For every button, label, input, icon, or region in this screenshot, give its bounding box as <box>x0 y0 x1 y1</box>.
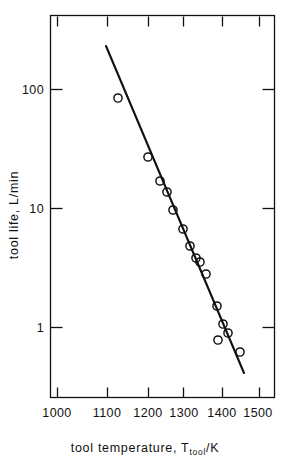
x-tick-label: 1400 <box>207 406 236 420</box>
x-axis-title: tool temperature, Ttool/K <box>71 441 219 457</box>
x-axis-title-subscript: tool <box>189 447 206 457</box>
x-tick-label: 1500 <box>243 406 272 420</box>
data-points <box>114 94 244 356</box>
chart-svg: 100 10 1 1000 1100 1200 1300 1400 1500 t… <box>0 0 290 475</box>
y-tick-label: 100 <box>22 83 44 97</box>
data-point <box>144 153 152 161</box>
y-tick-label: 10 <box>29 202 44 216</box>
x-axis-ticks-top <box>58 17 260 27</box>
y-axis-ticks <box>51 90 63 328</box>
x-axis-title-main: tool temperature, T <box>71 441 190 455</box>
x-tick-label: 1200 <box>133 406 162 420</box>
data-point <box>114 94 122 102</box>
data-point <box>214 336 222 344</box>
data-point <box>236 348 244 356</box>
x-axis-ticks <box>58 388 260 398</box>
x-axis-title-tail: /K <box>206 441 219 455</box>
fit-line <box>106 46 244 373</box>
y-tick-label: 1 <box>37 321 44 335</box>
x-tick-label: 1000 <box>42 406 71 420</box>
chart-figure: 100 10 1 1000 1100 1200 1300 1400 1500 t… <box>0 0 290 475</box>
plot-frame <box>51 16 275 398</box>
x-tick-label: 1100 <box>93 406 121 420</box>
x-tick-label: 1300 <box>169 406 198 420</box>
x-tick-labels: 1000 1100 1200 1300 1400 1500 <box>42 406 272 420</box>
y-tick-labels: 100 10 1 <box>22 83 44 335</box>
y-axis-ticks-right <box>263 90 275 328</box>
y-axis-title: tool life, L/min <box>7 171 21 259</box>
